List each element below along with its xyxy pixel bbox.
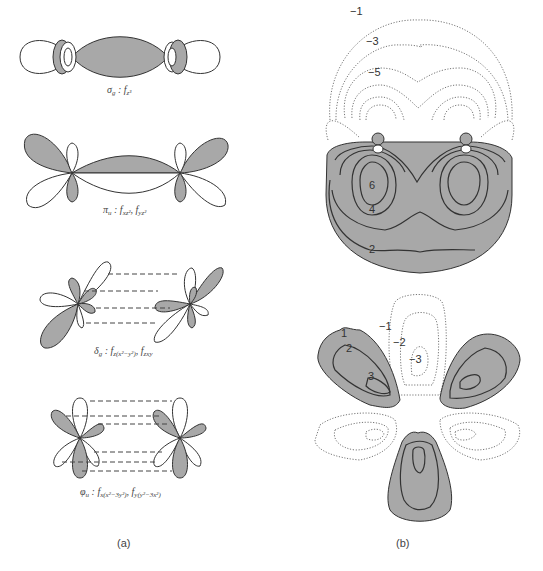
contour-label-neg3b: −3	[409, 353, 422, 365]
contour-label-neg3: −3	[366, 35, 379, 47]
orbital-label-sigma-g: σg : fz³	[107, 84, 131, 97]
contour-label-3b: 3	[368, 370, 374, 382]
delta-g-orbital	[40, 262, 223, 348]
contour-label-neg1b: −1	[379, 320, 392, 332]
pi-u-orbital	[24, 134, 228, 207]
panel-label-b: (b)	[396, 537, 409, 549]
panel-label-a: (a)	[117, 537, 130, 549]
contour-label-6: 6	[369, 179, 375, 191]
orbital-label-phi-u: φu : fx(x²−3y²), fy(y²−3x²)	[80, 486, 161, 499]
orbital-label-delta-g: δg : fz(x²−y²), fzxy	[94, 345, 153, 358]
phi-u-orbital	[51, 398, 206, 478]
contour-label-neg5: −5	[368, 66, 381, 78]
contour-map-top	[326, 20, 514, 273]
contour-label-neg2b: −2	[393, 336, 406, 348]
contour-label-2b: 2	[346, 342, 352, 354]
contour-label-2: 2	[369, 243, 375, 255]
contour-label-4: 4	[369, 203, 375, 215]
contour-label-1: 1	[341, 327, 347, 339]
contour-label-neg1: −1	[350, 5, 363, 17]
orbital-label-pi-u: πu : fxz², fyz²	[103, 204, 146, 217]
sigma-g-orbital	[20, 37, 220, 78]
